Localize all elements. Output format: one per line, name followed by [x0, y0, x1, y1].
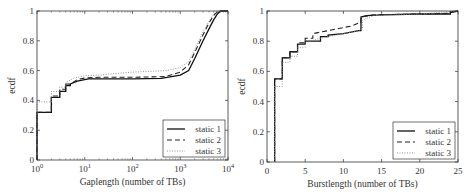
legend-label: static 2	[425, 137, 451, 147]
x-tick-label: 20	[415, 166, 425, 176]
y-axis-label: ecdf	[237, 77, 247, 94]
legend: static 1static 2static 3	[163, 120, 225, 157]
y-tick-label: 0	[260, 157, 265, 167]
x-tick-label: 5	[303, 166, 308, 176]
y-tick-label: 0.4	[23, 95, 35, 105]
legend-label: static 2	[195, 135, 221, 145]
legend-label: static 3	[425, 148, 451, 158]
y-axis-label: ecdf	[7, 76, 17, 93]
legend-label: static 3	[195, 146, 221, 156]
y-tick-label: 0.8	[23, 36, 35, 46]
x-tick-label: 25	[454, 166, 464, 176]
y-tick-label: 0.4	[253, 97, 265, 107]
legend: static 1static 2static 3	[393, 122, 455, 159]
x-tick-label: 0	[265, 166, 270, 176]
x-axis-label: Gaplength (number of TBs)	[80, 177, 186, 188]
figure: 10010110210310400.20.40.60.81Gaplength (…	[0, 0, 474, 194]
x-tick-label: 104	[222, 162, 235, 174]
y-tick-label: 1	[30, 6, 35, 16]
burstlength-ecdf-chart: 051015202500.20.40.60.81Burstlength (num…	[237, 6, 463, 190]
y-tick-label: 0.2	[253, 127, 264, 137]
x-tick-label: 101	[79, 162, 91, 174]
legend-label: static 1	[195, 124, 221, 134]
gaplength-ecdf-chart: 10010110210310400.20.40.60.81Gaplength (…	[7, 6, 235, 188]
x-tick-label: 103	[174, 162, 186, 174]
x-tick-label: 10	[339, 166, 349, 176]
y-tick-label: 0	[30, 155, 35, 165]
x-axis-label: Burstlength (number of TBs)	[307, 179, 417, 190]
y-tick-label: 0.6	[23, 66, 35, 76]
y-tick-label: 0.6	[253, 66, 265, 76]
y-tick-label: 0.2	[23, 125, 34, 135]
legend-label: static 1	[425, 126, 451, 136]
x-tick-label: 15	[377, 166, 387, 176]
x-tick-label: 102	[126, 162, 138, 174]
y-tick-label: 1	[260, 6, 265, 16]
y-tick-label: 0.8	[253, 36, 265, 46]
